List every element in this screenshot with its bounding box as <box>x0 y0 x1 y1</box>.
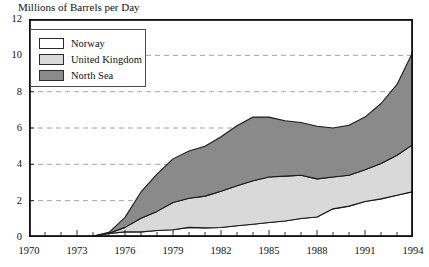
x-tick-label: 1973 <box>57 245 97 256</box>
x-tick-label: 1994 <box>393 245 429 256</box>
x-tick-label: 1985 <box>249 245 289 256</box>
legend-swatch-icon <box>39 70 64 81</box>
legend-item-label: United Kingdom <box>71 54 142 65</box>
x-tick-label: 1982 <box>201 245 241 256</box>
x-tick-label: 1988 <box>297 245 337 256</box>
legend-item-label: Norway <box>71 38 105 49</box>
y-tick-label: 2 <box>0 196 22 207</box>
legend-item-north-sea: North Sea <box>39 68 113 82</box>
y-tick-label: 6 <box>0 123 22 134</box>
y-tick-label: 4 <box>0 159 22 170</box>
x-tick-label: 1970 <box>9 245 49 256</box>
legend-swatch-icon <box>39 38 64 49</box>
legend-item-united-kingdom: United Kingdom <box>39 52 142 66</box>
y-tick-label: 12 <box>0 14 22 25</box>
legend-item-norway: Norway <box>39 36 105 50</box>
x-tick-label: 1979 <box>153 245 193 256</box>
legend-item-label: North Sea <box>71 70 113 81</box>
y-tick-label: 8 <box>0 87 22 98</box>
legend: NorwayUnited KingdomNorth Sea <box>30 29 146 87</box>
y-tick-label: 0 <box>0 232 22 243</box>
chart-title: Millions of Barrels per Day <box>18 0 140 14</box>
x-tick-label: 1976 <box>105 245 145 256</box>
chart-container: Millions of Barrels per Day 024681012 19… <box>0 0 429 267</box>
y-tick-label: 10 <box>0 50 22 61</box>
x-tick-label: 1991 <box>345 245 385 256</box>
legend-swatch-icon <box>39 54 64 65</box>
